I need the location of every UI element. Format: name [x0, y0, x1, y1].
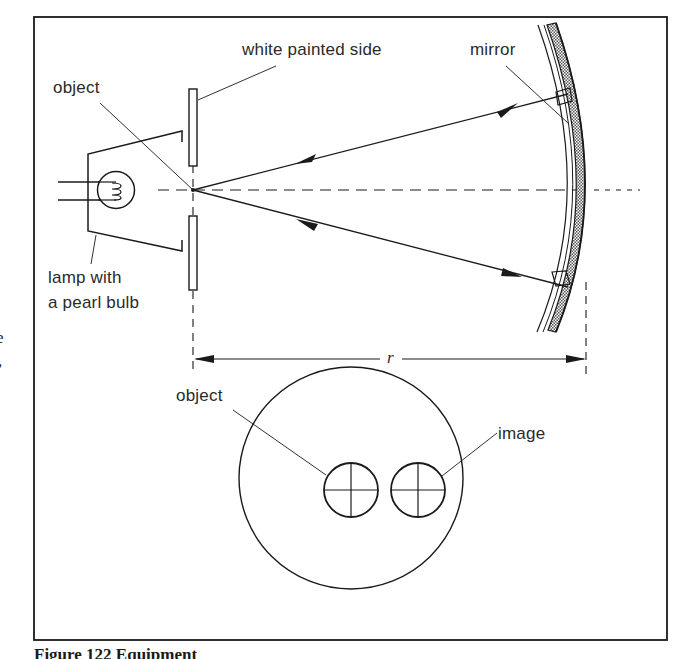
- label-lamp-line1: lamp with: [48, 269, 122, 286]
- object-crosshair-icon: [324, 463, 378, 517]
- label-object-top: object: [53, 79, 100, 96]
- screen-front-view: [233, 367, 497, 589]
- lower-plate: [189, 216, 197, 290]
- image-crosshair-icon: [391, 463, 445, 517]
- arrow-to-mirror-upper-icon: [497, 103, 518, 118]
- arrow-from-mirror-lower-icon: [296, 219, 318, 231]
- label-white-painted-side: white painted side: [242, 41, 382, 58]
- mirror-radius-diagram: [0, 0, 681, 659]
- arrow-right-icon: [566, 355, 586, 363]
- pearl-bulb-icon: [98, 172, 135, 209]
- label-mirror: mirror: [470, 41, 516, 58]
- arrow-left-icon: [194, 355, 214, 363]
- label-object-bottom: object: [176, 387, 223, 404]
- arrow-to-mirror-lower-icon: [501, 268, 522, 277]
- leader-lines: [91, 66, 569, 264]
- label-radius: r: [387, 349, 394, 366]
- edge-fragment-2: ,: [0, 352, 2, 369]
- object-point: [191, 188, 195, 192]
- edge-fragment-1: e: [0, 329, 4, 346]
- figure-caption: Figure 122 Equipment: [34, 646, 197, 659]
- upper-plate: [189, 89, 197, 166]
- label-image: image: [498, 425, 545, 442]
- label-lamp-line2: a pearl bulb: [48, 294, 139, 311]
